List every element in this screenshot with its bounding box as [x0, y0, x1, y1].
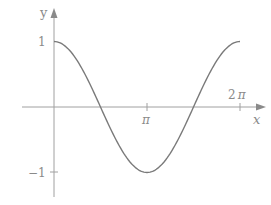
x-axis-label: x: [253, 112, 261, 127]
cosine-plot: y x 1 −1 π 2π: [0, 0, 271, 205]
ytick-neg1-label: −1: [28, 166, 46, 180]
y-axis-arrow-icon: [51, 8, 58, 18]
xtick-pi-label: π: [141, 113, 151, 127]
ytick-1-label: 1: [38, 35, 46, 49]
x-axis-arrow-icon: [256, 104, 266, 111]
xtick-2pi-label: 2π: [228, 88, 247, 102]
y-axis-label: y: [39, 5, 48, 20]
